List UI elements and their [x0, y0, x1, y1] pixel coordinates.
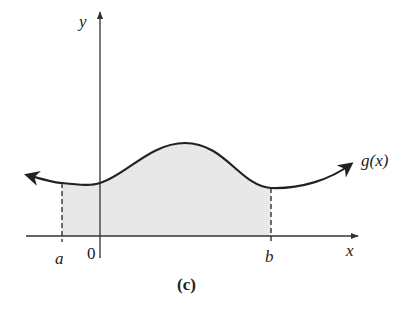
tick-label-b: b — [265, 248, 274, 265]
x-axis-label: x — [346, 242, 354, 259]
y-axis-label: y — [79, 13, 87, 30]
figure-caption: (c) — [177, 276, 196, 293]
tick-label-a: a — [55, 250, 64, 267]
function-label: g(x) — [361, 152, 388, 169]
tick-label-origin: 0 — [87, 245, 96, 262]
shaded-area — [62, 143, 271, 236]
